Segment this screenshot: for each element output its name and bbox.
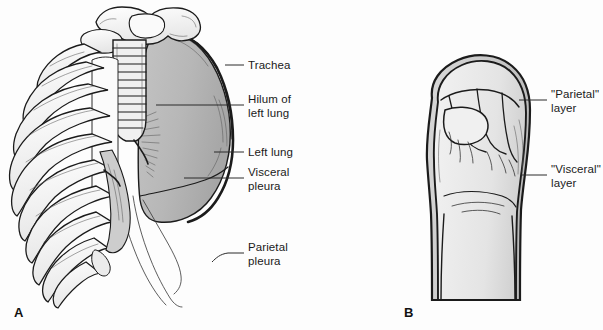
label-visceral-pleura-line-2: pleura — [248, 180, 281, 192]
label-parietal-pleura-line-1: Parietal — [248, 241, 288, 253]
panel-letter-b: B — [404, 305, 413, 320]
label-visceral-layer-line-2: layer — [551, 177, 576, 189]
anatomy-figure: Trachea Hilum of left lung Left lung Vis… — [0, 0, 603, 330]
thumb — [444, 107, 488, 144]
label-trachea: Trachea — [248, 59, 291, 71]
fist-shape — [434, 61, 526, 300]
label-parietal-layer-line-2: layer — [551, 102, 576, 114]
panel-letter-a: A — [14, 305, 24, 320]
label-left-lung: Left lung — [248, 146, 293, 158]
label-visceral-layer-line-1: "Visceral" — [551, 163, 601, 175]
label-hilum-line-2: left lung — [248, 107, 289, 119]
label-parietal-layer-line-1: "Parietal" — [551, 88, 599, 100]
label-parietal-pleura-line-2: pleura — [248, 255, 281, 267]
label-visceral-pleura-line-1: Visceral — [248, 166, 290, 178]
label-hilum-line-1: Hilum of — [248, 93, 292, 105]
vertebral-foramen — [129, 14, 164, 38]
